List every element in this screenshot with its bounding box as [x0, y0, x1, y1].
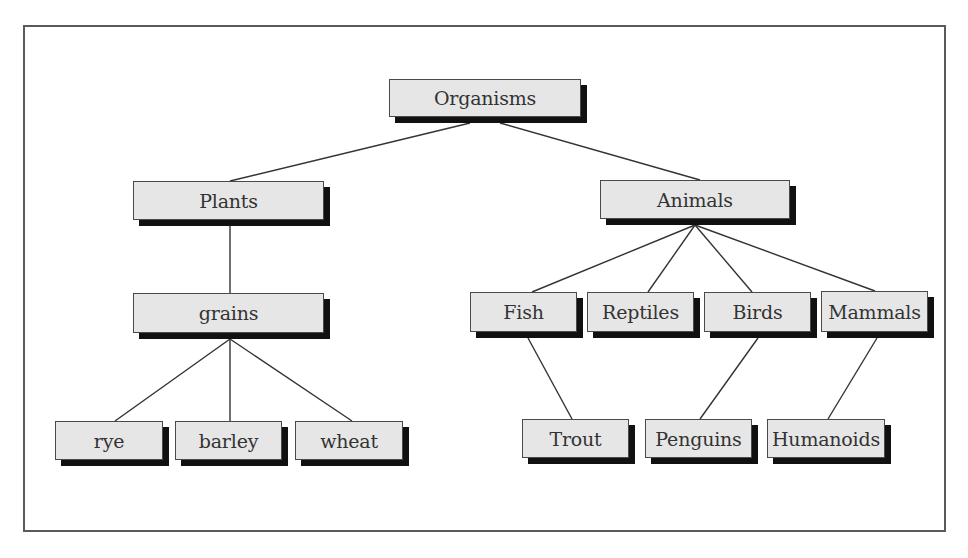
node-organisms: Organisms	[389, 79, 581, 117]
node-reptiles: Reptiles	[587, 292, 694, 332]
node-label: Mammals	[828, 301, 921, 323]
node-label: Plants	[199, 190, 258, 212]
node-trout: Trout	[522, 419, 629, 458]
edge-grains-wheat	[230, 339, 352, 421]
node-label: rye	[94, 430, 124, 452]
edge-fish-trout	[528, 338, 572, 419]
node-birds: Birds	[704, 292, 811, 332]
node-mammals: Mammals	[821, 291, 928, 332]
node-rye: rye	[55, 421, 163, 460]
node-barley: barley	[175, 421, 282, 460]
node-label: Organisms	[434, 87, 536, 109]
edge-organisms-plants	[230, 123, 470, 181]
node-plants: Plants	[133, 181, 324, 220]
node-label: Animals	[657, 189, 733, 211]
edge-birds-penguins	[700, 338, 758, 419]
node-label: Trout	[549, 428, 601, 450]
node-fish: Fish	[470, 292, 577, 332]
node-grains: grains	[133, 293, 324, 333]
node-label: Humanoids	[772, 428, 880, 450]
edge-grains-rye	[115, 339, 230, 421]
edge-animals-mammals	[695, 225, 875, 291]
node-label: Fish	[503, 301, 543, 323]
node-label: wheat	[320, 430, 378, 452]
node-wheat: wheat	[295, 421, 403, 460]
node-penguins: Penguins	[645, 419, 752, 458]
node-label: barley	[199, 430, 258, 452]
node-label: Birds	[732, 301, 782, 323]
edge-mammals-humanoids	[828, 338, 877, 419]
node-label: Penguins	[655, 428, 741, 450]
edge-animals-fish	[532, 225, 695, 292]
node-label: Reptiles	[602, 301, 679, 323]
node-animals: Animals	[600, 180, 790, 219]
edge-organisms-animals	[500, 123, 700, 180]
node-humanoids: Humanoids	[767, 419, 885, 458]
node-label: grains	[199, 302, 258, 324]
